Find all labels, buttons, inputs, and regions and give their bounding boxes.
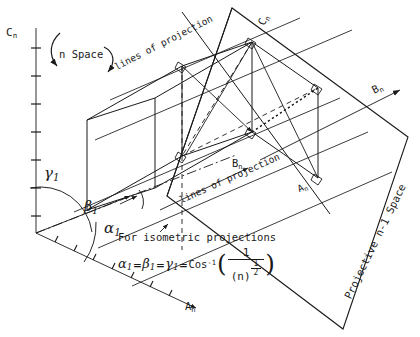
formula-numerator: 1 [228, 247, 265, 260]
axis-label-c-n: Cn [6, 27, 17, 40]
formula-denominator: (n)12 [228, 260, 265, 282]
formula-gamma: γ1 [165, 257, 178, 272]
formula-close-paren: ) [265, 252, 275, 277]
c-axis [31, 28, 41, 233]
formula-beta: β1 [142, 257, 155, 272]
formula-expression: α1 = β1 = γ1 = Cos-1 ( 1 (n)12 ) [118, 247, 275, 282]
diagram-canvas: Cn n Space lines of projection lines of … [0, 0, 420, 337]
angle-label-gamma: γ1 [44, 166, 59, 183]
axis-label-b-n-inner: Bn [232, 158, 243, 170]
formula-alpha: α1 [118, 257, 132, 272]
angle-label-beta: β1 [84, 199, 98, 215]
formula-cos: Cos-1 [188, 259, 216, 270]
axis-label-a-n: An [185, 301, 196, 313]
annotation-n-space: n Space [59, 49, 103, 60]
formula-caption: For isometric projections [118, 232, 276, 243]
formula-fraction: 1 (n)12 [228, 247, 265, 282]
formula-open-paren: ( [217, 252, 227, 277]
formula-eq-3: = [180, 258, 188, 271]
formula-eq-1: = [133, 258, 141, 271]
gamma-arc [30, 187, 92, 232]
formula-eq-2: = [156, 258, 164, 271]
formula-denominator-exponent: 12 [251, 260, 262, 278]
face-diagonals [182, 42, 318, 178]
